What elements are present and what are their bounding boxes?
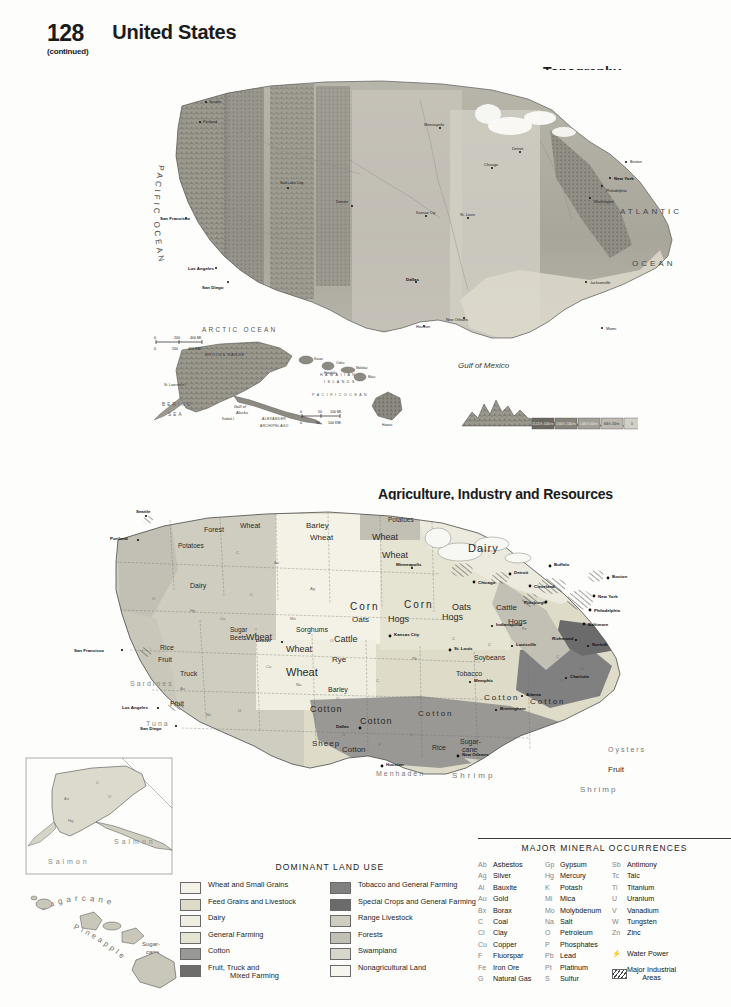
svg-text:Houston: Houston: [416, 325, 430, 329]
svg-text:Cotton: Cotton: [418, 709, 454, 718]
svg-text:Au: Au: [180, 686, 186, 691]
agriculture-hawaii-inset[interactable]: Sugarcane Pineapple Sugar- cane: [28, 884, 188, 994]
svg-text:Boston: Boston: [630, 160, 642, 164]
mineral-symbol: Fe: [478, 964, 493, 971]
mineral-name: Potash: [560, 883, 582, 892]
land-use-label: Dairy: [208, 914, 225, 923]
svg-text:Potatoes: Potatoes: [388, 516, 414, 523]
svg-text:Molokai: Molokai: [356, 366, 368, 370]
svg-text:Barley: Barley: [306, 521, 329, 530]
svg-text:Hg: Hg: [68, 818, 73, 823]
svg-text:0: 0: [154, 347, 156, 351]
svg-text:New York: New York: [614, 176, 634, 181]
land-use-legend-title: DOMINANT LAND USE: [180, 862, 480, 872]
mineral-symbol: Tc: [612, 872, 627, 879]
svg-text:0: 0: [154, 336, 156, 340]
mineral-legend-extra: Major IndustrialAreas: [612, 968, 702, 980]
svg-text:Miami: Miami: [606, 327, 616, 331]
mineral-legend-item: HgMercury: [545, 871, 612, 882]
svg-text:Ti: Ti: [596, 692, 599, 697]
svg-text:St. Louis: St. Louis: [454, 646, 473, 651]
svg-text:New Orleans: New Orleans: [462, 752, 489, 757]
svg-text:100 KM.: 100 KM.: [328, 421, 341, 425]
mineral-legend-item: UUranium: [612, 894, 702, 905]
svg-text:G: G: [342, 732, 345, 737]
mineral-legend-item: PbLead: [545, 951, 612, 962]
continued-label: (continued): [47, 47, 88, 56]
mineral-name: Fluorspar: [493, 951, 523, 960]
svg-text:Hogs: Hogs: [442, 612, 464, 622]
land-use-legend-item: Feed Grains and Livestock: [180, 898, 330, 915]
mineral-name: Vanadium: [627, 906, 659, 915]
mineral-symbol: V: [612, 907, 627, 914]
svg-text:200: 200: [174, 336, 180, 340]
mineral-name: Talc: [627, 871, 640, 880]
svg-text:Seattle: Seattle: [136, 509, 151, 514]
agriculture-alaska-inset[interactable]: Salmon Salmon Au O Hg C: [22, 752, 182, 880]
svg-text:Charlotte: Charlotte: [570, 674, 590, 679]
svg-text:Potatoes: Potatoes: [178, 542, 204, 549]
svg-text:Shrimp: Shrimp: [580, 785, 617, 794]
svg-text:Fruit: Fruit: [158, 656, 172, 663]
elevation-label: 13,120 ft. 4,000 m.: [532, 422, 554, 426]
mineral-legend-item: MoMolybdenum: [545, 906, 612, 917]
mineral-legend-item: PtPlatinum: [545, 963, 612, 974]
mineral-name: Mercury: [560, 871, 586, 880]
major-mineral-occurrences-legend: MAJOR MINERAL OCCURRENCES AbAsbestosAgSi…: [478, 838, 731, 985]
mineral-column-1: AbAsbestosAgSilverAlBauxiteAuGoldBxBorax…: [478, 860, 545, 985]
alaska-inset-scale-bar: 0 200 400 MI. 0 200 400 KM.: [154, 336, 202, 351]
mineral-symbol: Ab: [478, 861, 493, 868]
svg-text:Truck: Truck: [180, 670, 198, 677]
mineral-symbol: Hg: [545, 872, 560, 879]
svg-text:Buffalo: Buffalo: [554, 562, 569, 567]
svg-text:Oahu: Oahu: [336, 361, 344, 365]
svg-text:Barley: Barley: [328, 686, 348, 694]
mineral-extra-label: Major IndustrialAreas: [627, 966, 676, 982]
page-header: 128 (continued) United States: [47, 22, 236, 56]
mineral-legend-item: FFluorspar: [478, 951, 545, 962]
arctic-ocean-label: ARCTIC OCEAN: [202, 326, 278, 333]
mineral-legend-item: AlBauxite: [478, 883, 545, 894]
land-use-column-2: Tobacco and General FarmingSpecial Crops…: [330, 881, 480, 980]
mineral-symbol: Na: [545, 918, 560, 925]
svg-text:C: C: [236, 550, 239, 555]
svg-text:Kodiak I.: Kodiak I.: [222, 417, 235, 421]
svg-text:Salmon: Salmon: [114, 838, 156, 845]
svg-text:Hawaii: Hawaii: [382, 423, 392, 427]
svg-text:Corn: Corn: [350, 601, 380, 612]
svg-text:Salt Lake City: Salt Lake City: [280, 181, 304, 185]
mineral-legend-extra: ⚡Water Power: [612, 948, 702, 960]
mineral-symbol: Al: [478, 884, 493, 891]
land-use-swatch: [330, 915, 351, 927]
svg-text:Dairy: Dairy: [468, 542, 499, 554]
mineral-legend-item: SbAntimony: [612, 860, 702, 871]
mineral-symbol: S: [545, 975, 560, 982]
mineral-name: Coal: [493, 917, 508, 926]
mineral-legend-item: WTungsten: [612, 917, 702, 928]
svg-text:Wheat: Wheat: [286, 644, 313, 654]
svg-text:Salmon: Salmon: [48, 858, 90, 865]
svg-text:BERING: BERING: [162, 402, 193, 407]
mineral-name: Platinum: [560, 963, 588, 972]
svg-text:400 MI.: 400 MI.: [190, 336, 202, 340]
svg-text:Shrimp: Shrimp: [452, 771, 495, 780]
elevation-label: 1,640 ft. 500 m.: [580, 422, 598, 426]
topography-hawaii-inset[interactable]: H A W A I I A N I S L A N D S P A C I F …: [290, 348, 420, 436]
svg-text:50: 50: [316, 421, 320, 425]
svg-text:Wheat: Wheat: [310, 533, 334, 542]
svg-text:Denver: Denver: [336, 200, 349, 204]
svg-text:San Diego: San Diego: [140, 726, 162, 731]
svg-text:I S L A N D S: I S L A N D S: [324, 380, 355, 384]
mineral-legend-item: ClClay: [478, 928, 545, 939]
svg-text:U: U: [238, 708, 241, 713]
svg-text:Menhaden: Menhaden: [376, 770, 425, 777]
mineral-name: Antimony: [627, 860, 657, 869]
mineral-name: Titanium: [627, 883, 654, 892]
svg-text:SEA: SEA: [168, 412, 184, 417]
svg-text:S: S: [378, 742, 381, 747]
page-number: 128: [47, 22, 88, 45]
svg-text:Norfolk: Norfolk: [592, 642, 608, 647]
svg-text:Ag: Ag: [310, 586, 316, 591]
industrial-area-hatch-icon: [612, 969, 627, 979]
svg-text:200: 200: [172, 347, 178, 351]
